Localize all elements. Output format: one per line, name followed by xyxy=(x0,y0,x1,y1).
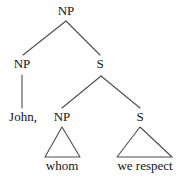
node-mid-np: NP xyxy=(54,110,71,124)
node-top-s: S xyxy=(96,57,103,71)
tree-triangles xyxy=(45,127,172,157)
edge-top-s-to-lower-s xyxy=(101,76,140,108)
edge-root-to-left-np xyxy=(23,21,66,55)
leaf-whom: whom xyxy=(46,159,79,173)
leaf-we-respect: we respect xyxy=(117,159,172,173)
we-respect-triangle xyxy=(117,127,172,157)
leaf-john: John, xyxy=(9,110,37,124)
edge-root-to-top-s xyxy=(66,21,100,55)
syntax-tree-diagram: NP NP S NP S John, whom we respect xyxy=(0,0,182,180)
whom-triangle xyxy=(45,127,80,157)
node-left-np: NP xyxy=(14,57,31,71)
tree-lines-svg xyxy=(0,0,182,180)
node-root-np: NP xyxy=(58,4,75,18)
node-lower-s: S xyxy=(136,110,143,124)
tree-edges xyxy=(22,21,140,108)
edge-top-s-to-mid-np xyxy=(62,76,101,108)
